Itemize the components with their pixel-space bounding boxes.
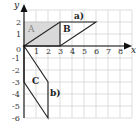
svg-text:3: 3 [58,47,63,56]
svg-text:-5: -5 [12,102,20,111]
svg-text:5: 5 [82,47,87,56]
svg-text:2: 2 [16,18,21,27]
svg-text:-4: -4 [12,90,20,99]
svg-text:2: 2 [46,47,51,56]
annotation-a: a) [74,11,84,21]
label-b: B [63,24,71,34]
svg-text:8: 8 [118,47,123,56]
svg-text:-3: -3 [12,78,20,87]
label-a: A [27,24,35,34]
svg-text:7: 7 [106,47,111,56]
svg-text:1: 1 [34,47,39,56]
x-tick-labels: 0 1 2 3 4 5 6 7 8 [16,45,123,56]
x-axis-label: x [131,45,136,55]
svg-text:-2: -2 [12,66,20,75]
svg-text:4: 4 [70,47,75,56]
y-axis-arrow-icon [21,4,28,12]
svg-text:0: 0 [16,45,21,54]
svg-text:-6: -6 [12,114,20,123]
transformation-diagram: y x 0 1 2 3 4 5 6 7 8 2 1 -1 -2 -3 -4 -5… [0,0,137,126]
label-c: C [32,76,39,86]
svg-text:6: 6 [94,47,99,56]
annotation-b: b) [50,88,61,98]
y-axis-label: y [13,0,20,10]
svg-text:1: 1 [16,30,21,39]
svg-text:-1: -1 [12,54,20,63]
y-tick-labels: 2 1 -1 -2 -3 -4 -5 -6 [12,18,21,123]
